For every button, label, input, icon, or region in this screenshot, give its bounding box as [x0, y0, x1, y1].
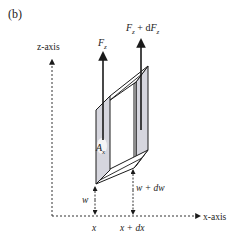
height-label-w-dw: w + dw: [136, 183, 165, 193]
x-axis: x-axis: [52, 212, 227, 222]
force-label-right: Fz + dFz: [125, 22, 160, 36]
force-label-left: Fz: [97, 37, 107, 51]
z-axis-label: z-axis: [37, 42, 60, 52]
position-label-x-dx: x + dx: [119, 223, 145, 233]
height-label-w: w: [82, 195, 89, 205]
panel-label: (b): [8, 7, 22, 21]
position-label-x: x: [91, 223, 97, 233]
x-axis-label: x-axis: [203, 212, 227, 222]
z-axis: z-axis: [37, 42, 60, 216]
slab-diagram: (b) z-axis x-axis Fz Fz + dFz Ax: [0, 0, 250, 238]
